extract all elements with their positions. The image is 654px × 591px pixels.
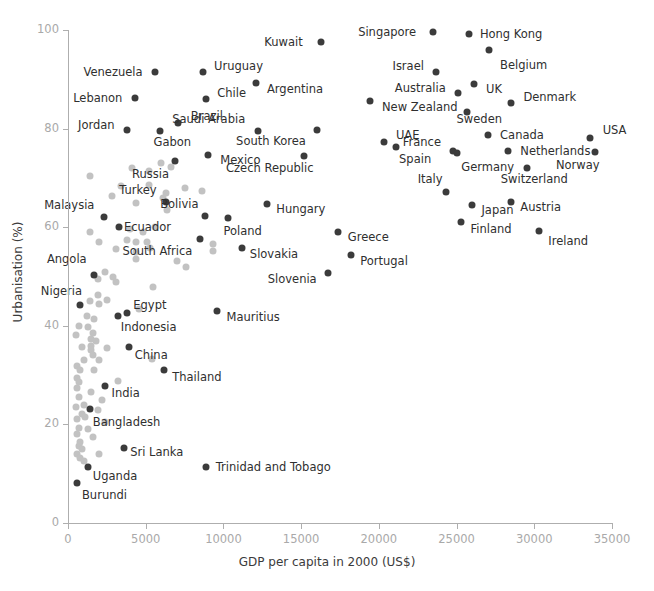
data-point-burundi bbox=[74, 479, 81, 486]
data-point-greece bbox=[335, 229, 342, 236]
data-point-austria bbox=[507, 198, 514, 205]
y-tick-mark bbox=[63, 227, 68, 228]
point-label-belgium: Belgium bbox=[500, 59, 547, 71]
point-label-poland: Poland bbox=[223, 225, 261, 237]
point-label-burundi: Burundi bbox=[82, 489, 127, 501]
data-point-russia bbox=[172, 158, 179, 165]
data-point-trinidad-and-tobago bbox=[203, 464, 210, 471]
point-label-singapore: Singapore bbox=[358, 26, 416, 38]
data-point-india bbox=[102, 383, 109, 390]
data-point bbox=[94, 406, 101, 413]
data-point-canada bbox=[484, 132, 491, 139]
point-label-czech-republic: Czech Republic bbox=[226, 162, 314, 174]
y-tick-label: 80 bbox=[19, 121, 59, 135]
data-point bbox=[183, 263, 190, 270]
y-tick-mark bbox=[63, 129, 68, 130]
data-point-israel bbox=[433, 69, 440, 76]
point-label-lebanon: Lebanon bbox=[73, 92, 122, 104]
point-label-denmark: Denmark bbox=[523, 91, 576, 103]
data-point-uruguay bbox=[200, 68, 207, 75]
point-label-portugal: Portugal bbox=[360, 255, 408, 267]
x-axis-line bbox=[68, 523, 613, 524]
point-label-mauritius: Mauritius bbox=[227, 311, 280, 323]
x-tick-label: 20000 bbox=[349, 532, 409, 546]
y-tick-label: 60 bbox=[19, 219, 59, 233]
y-tick-label: 0 bbox=[19, 515, 59, 529]
data-point-uae bbox=[380, 138, 387, 145]
point-label-hong-kong: Hong Kong bbox=[480, 28, 543, 40]
data-point-south-korea bbox=[313, 127, 320, 134]
x-tick-label: 35000 bbox=[582, 532, 642, 546]
data-point-uganda bbox=[85, 463, 92, 470]
data-point-poland bbox=[225, 215, 232, 222]
data-point-germany bbox=[453, 150, 460, 157]
point-label-egypt: Egypt bbox=[133, 299, 166, 311]
data-point bbox=[72, 403, 79, 410]
data-point-uk bbox=[470, 81, 477, 88]
x-tick-mark bbox=[379, 524, 380, 529]
data-point bbox=[78, 344, 85, 351]
point-label-ecuador: Ecuador bbox=[124, 221, 171, 233]
x-tick-label: 30000 bbox=[504, 532, 564, 546]
data-point bbox=[89, 433, 96, 440]
data-point bbox=[91, 316, 98, 323]
data-point-kuwait bbox=[318, 38, 325, 45]
data-point-norway bbox=[591, 149, 598, 156]
data-point-thailand bbox=[161, 366, 168, 373]
data-point bbox=[86, 173, 93, 180]
point-label-australia: Australia bbox=[395, 82, 446, 94]
data-point-ireland bbox=[535, 228, 542, 235]
data-point bbox=[74, 416, 81, 423]
data-point bbox=[162, 189, 169, 196]
data-point bbox=[75, 322, 82, 329]
data-point-sri-lanka bbox=[120, 445, 127, 452]
data-point-bolivia bbox=[201, 213, 208, 220]
data-point-south-africa bbox=[197, 236, 204, 243]
data-point bbox=[96, 301, 103, 308]
data-point bbox=[96, 238, 103, 245]
data-point bbox=[113, 246, 120, 253]
y-tick-label: 100 bbox=[19, 22, 59, 36]
point-label-new-zealand: New Zealand bbox=[382, 101, 458, 113]
data-point bbox=[114, 378, 121, 385]
y-tick-mark bbox=[63, 326, 68, 327]
point-label-thailand: Thailand bbox=[172, 371, 221, 383]
point-label-uganda: Uganda bbox=[93, 470, 137, 482]
y-tick-label: 20 bbox=[19, 416, 59, 430]
x-tick-mark bbox=[68, 524, 69, 529]
data-point bbox=[209, 247, 216, 254]
data-point bbox=[124, 236, 131, 243]
data-point-lebanon bbox=[131, 94, 138, 101]
data-point-jordan bbox=[124, 127, 131, 134]
data-point bbox=[75, 394, 82, 401]
data-point-denmark bbox=[507, 100, 514, 107]
data-point bbox=[108, 192, 115, 199]
y-tick-mark bbox=[63, 424, 68, 425]
point-label-nigeria: Nigeria bbox=[41, 285, 82, 297]
x-axis-title: GDP per capita in 2000 (US$) bbox=[0, 555, 654, 569]
data-point-belgium bbox=[486, 46, 493, 53]
point-label-angola: Angola bbox=[47, 253, 87, 265]
data-point bbox=[77, 367, 84, 374]
point-label-saudi-arabia: Saudi Arabia bbox=[172, 113, 245, 125]
data-point bbox=[94, 291, 101, 298]
data-point-angola bbox=[91, 271, 98, 278]
data-point-ecuador bbox=[116, 224, 123, 231]
data-point-netherlands bbox=[504, 147, 511, 154]
point-label-uk: UK bbox=[486, 83, 502, 95]
point-label-switzerland: Switzerland bbox=[501, 173, 568, 185]
point-label-sri-lanka: Sri Lanka bbox=[130, 446, 183, 458]
data-point-hungary bbox=[263, 200, 270, 207]
point-label-slovenia: Slovenia bbox=[268, 273, 317, 285]
point-label-south-africa: South Africa bbox=[122, 245, 192, 257]
data-point-italy bbox=[442, 188, 449, 195]
data-point-slovenia bbox=[324, 269, 331, 276]
point-label-france: France bbox=[403, 136, 441, 148]
point-label-israel: Israel bbox=[392, 60, 423, 72]
data-point bbox=[133, 199, 140, 206]
data-point-nigeria bbox=[77, 301, 84, 308]
data-point-slovakia bbox=[239, 244, 246, 251]
point-label-trinidad-and-tobago: Trinidad and Tobago bbox=[216, 461, 331, 473]
y-tick-label: 40 bbox=[19, 318, 59, 332]
data-point-gabon bbox=[156, 127, 163, 134]
